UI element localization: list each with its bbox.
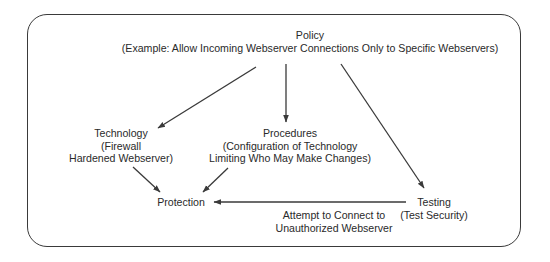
node-technology: Technology (Firewall Hardened Webserver)	[69, 127, 173, 165]
node-protection: Protection	[157, 196, 205, 209]
edge-label-attempt: Attempt to Connect to Unauthorized Webse…	[276, 209, 393, 234]
procedures-detail-1: (Configuration of Technology	[209, 140, 371, 153]
technology-detail-1: (Firewall	[69, 140, 173, 153]
arrow-procedures-to-protection	[203, 168, 228, 192]
node-procedures: Procedures (Configuration of Technology …	[209, 127, 371, 165]
protection-title: Protection	[157, 196, 205, 209]
testing-detail: (Test Security)	[400, 209, 468, 222]
technology-title: Technology	[69, 127, 173, 140]
node-policy: Policy (Example: Allow Incoming Webserve…	[122, 29, 498, 54]
arrow-policy-to-testing	[341, 64, 424, 188]
node-testing: Testing (Test Security)	[400, 196, 468, 221]
policy-title: Policy	[122, 29, 498, 42]
testing-title: Testing	[400, 196, 468, 209]
edge-label-line-2: Unauthorized Webserver	[276, 222, 393, 235]
procedures-detail-2: Limiting Who May Make Changes)	[209, 152, 371, 165]
procedures-title: Procedures	[209, 127, 371, 140]
technology-detail-2: Hardened Webserver)	[69, 152, 173, 165]
arrow-policy-to-technology	[158, 67, 256, 128]
policy-detail: (Example: Allow Incoming Webserver Conne…	[122, 42, 498, 55]
arrow-technology-to-protection	[133, 167, 160, 192]
edge-label-line-1: Attempt to Connect to	[276, 209, 393, 222]
